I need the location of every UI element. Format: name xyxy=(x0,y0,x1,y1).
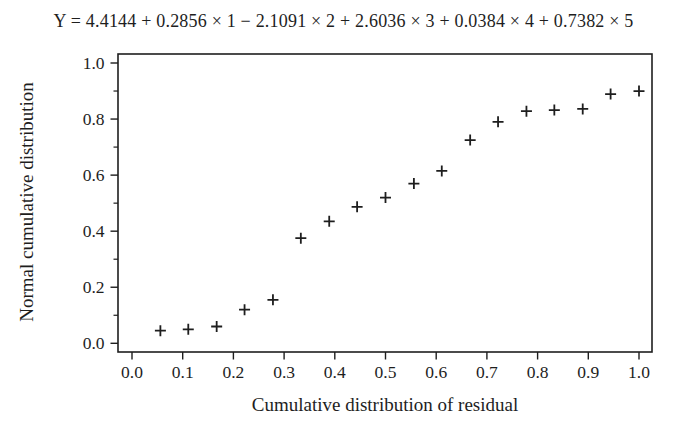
y-tick-label: 0.4 xyxy=(83,221,105,241)
data-point xyxy=(380,192,391,203)
data-point xyxy=(239,304,250,315)
y-tick-label: 1.0 xyxy=(83,53,105,73)
data-point xyxy=(408,178,419,189)
data-point xyxy=(493,116,504,127)
data-point xyxy=(577,103,588,114)
x-tick-label: 0.7 xyxy=(476,362,498,382)
data-point xyxy=(605,89,616,100)
y-tick-label: 0.8 xyxy=(83,109,105,129)
y-tick-label: 0.6 xyxy=(83,165,105,185)
x-tick-label: 0.3 xyxy=(273,362,295,382)
data-point xyxy=(436,165,447,176)
figure: Y = 4.4144 + 0.2856 × 1 − 2.1091 × 2 + 2… xyxy=(0,0,687,443)
data-point xyxy=(521,106,532,117)
x-tick-label: 0.9 xyxy=(577,362,599,382)
data-point xyxy=(267,294,278,305)
y-tick-label: 0.2 xyxy=(83,277,105,297)
data-point xyxy=(465,135,476,146)
x-tick-label: 0.6 xyxy=(425,362,447,382)
data-point xyxy=(324,216,335,227)
y-tick-label: 0.0 xyxy=(83,333,105,353)
x-tick-label: 1.0 xyxy=(628,362,650,382)
x-tick-label: 0.8 xyxy=(527,362,549,382)
data-point xyxy=(295,233,306,244)
x-tick-label: 0.2 xyxy=(222,362,244,382)
data-point xyxy=(352,201,363,212)
plot-area: 0.00.10.20.30.40.50.60.70.80.91.00.00.20… xyxy=(0,0,687,443)
data-point xyxy=(183,324,194,335)
data-point xyxy=(211,321,222,332)
data-point xyxy=(155,325,166,336)
data-point xyxy=(634,86,645,97)
x-tick-label: 0.4 xyxy=(324,362,346,382)
x-tick-label: 0.5 xyxy=(375,362,397,382)
x-tick-label: 0.1 xyxy=(172,362,194,382)
y-axis-label: Normal cumulative distribution xyxy=(16,82,38,322)
x-axis-label: Cumulative distribution of residual xyxy=(118,394,652,416)
x-tick-label: 0.0 xyxy=(121,362,143,382)
data-point xyxy=(549,105,560,116)
